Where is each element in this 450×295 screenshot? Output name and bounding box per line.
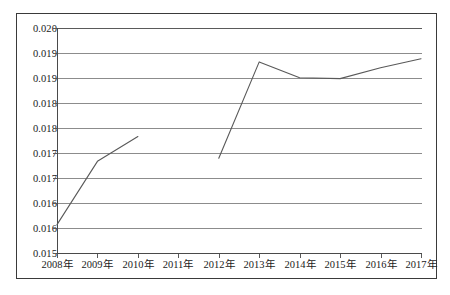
x-axis-tick-label: 2017年 [406,258,437,272]
x-axis-tick-label: 2012年 [204,258,235,272]
y-axis-tick-label: 0.017 [17,173,57,184]
y-axis-tick-label: 0.019 [17,73,57,84]
x-axis-tick-label: 2016年 [366,258,397,272]
x-axis-labels: 2008年 2009年 2010年 2011年 2012年 2013年 2014… [57,258,422,278]
x-axis-tick-label: 2011年 [163,258,194,272]
x-axis-tick-label: 2008年 [42,258,73,272]
data-series-line [57,28,422,254]
x-axis-tick-label: 2015年 [325,258,356,272]
x-axis-tick-label: 2009年 [82,258,113,272]
plot-area [57,28,422,254]
y-axis-tick-label: 0.016 [17,223,57,234]
y-axis-tick-label: 0.016 [17,198,57,209]
y-axis-tick-label: 0.017 [17,148,57,159]
chart-figure: 0.020 0.019 0.019 0.018 0.018 0.017 0.01… [16,13,437,279]
x-axis-tick-label: 2013年 [244,258,275,272]
y-axis-labels: 0.020 0.019 0.019 0.018 0.018 0.017 0.01… [17,14,57,278]
x-axis-tick-label: 2010年 [123,258,154,272]
y-axis-tick-label: 0.019 [17,48,57,59]
y-axis-tick-label: 0.018 [17,123,57,134]
x-axis-tick-label: 2014年 [285,258,316,272]
y-axis-tick-label: 0.020 [17,23,57,34]
y-axis-tick-label: 0.018 [17,98,57,109]
